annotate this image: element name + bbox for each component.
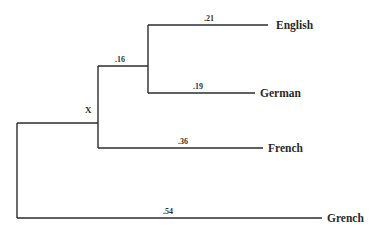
branch-length-english: .21 <box>204 14 214 23</box>
leaf-label-german: German <box>260 87 301 99</box>
node-label-x: X <box>85 105 92 115</box>
branch-length-internal: .16 <box>115 55 125 64</box>
branch-length-grench: .54 <box>163 207 173 216</box>
leaf-label-english: English <box>276 19 314 32</box>
branch-length-german: .19 <box>193 82 203 91</box>
leaf-label-grench: Grench <box>327 212 364 224</box>
tree-diagram: .21 .19 .36 .54 .16 X English German Fre… <box>0 0 373 229</box>
branch-length-french: .36 <box>178 137 188 146</box>
leaf-label-french: French <box>268 142 304 154</box>
